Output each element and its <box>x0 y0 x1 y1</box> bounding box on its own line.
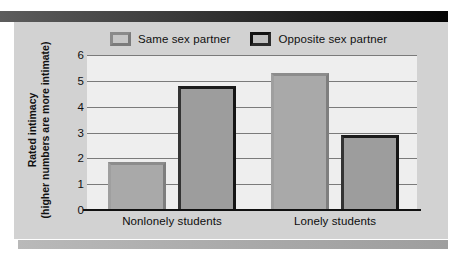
y-tick-5: 5 <box>78 75 84 87</box>
y-axis-title-line2: (higher numbers are more intimate) <box>39 42 51 219</box>
y-axis-title-wrapper: Rated intimacy (higher numbers are more … <box>22 48 56 212</box>
gridline-5 <box>87 81 417 82</box>
legend-item-opposite-sex: Opposite sex partner <box>250 32 387 46</box>
bar-lonely-same-sex[interactable] <box>271 73 329 210</box>
bar-lonely-opposite-sex[interactable] <box>341 135 399 210</box>
y-tick-2: 2 <box>78 152 84 164</box>
y-tick-6: 6 <box>78 49 84 61</box>
top-decorative-rule <box>0 11 448 22</box>
plot-area <box>87 55 417 210</box>
bar-nonlonely-opposite-sex[interactable] <box>178 86 236 210</box>
y-tick-4: 4 <box>78 101 84 113</box>
gridline-3 <box>87 133 417 134</box>
bottom-decorative-rule <box>18 240 448 249</box>
y-axis-tick-labels: 0 1 2 3 4 5 6 <box>62 55 84 210</box>
legend-swatch-same-sex-icon <box>110 32 131 46</box>
gridline-4 <box>87 107 417 108</box>
category-label-nonlonely: Nonlonely students <box>122 215 222 227</box>
x-axis-category-labels: Nonlonely students Lonely students <box>87 215 417 233</box>
category-label-lonely: Lonely students <box>294 215 376 227</box>
legend-label-opposite-sex: Opposite sex partner <box>278 33 387 45</box>
gridline-6 <box>87 55 417 56</box>
y-tick-3: 3 <box>78 127 84 139</box>
y-axis-title-line1: Rated intimacy <box>26 93 38 168</box>
legend-item-same-sex: Same sex partner <box>110 32 230 46</box>
legend-label-same-sex: Same sex partner <box>138 33 230 45</box>
chart-legend: Same sex partner Opposite sex partner <box>110 29 410 49</box>
legend-swatch-opposite-sex-icon <box>250 32 271 46</box>
y-axis-title: Rated intimacy (higher numbers are more … <box>26 42 52 219</box>
figure-container: Same sex partner Opposite sex partner Ra… <box>0 0 473 262</box>
bar-nonlonely-same-sex[interactable] <box>108 162 166 210</box>
x-axis-baseline <box>83 209 421 211</box>
y-tick-1: 1 <box>78 178 84 190</box>
